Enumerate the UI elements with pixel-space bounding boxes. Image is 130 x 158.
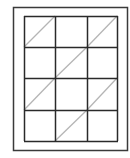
cell-diagonal [24, 78, 55, 110]
cell-diagonal [55, 110, 87, 141]
cell-diagonal [87, 16, 117, 47]
cell-diagonal [87, 78, 117, 110]
window-grid-diagram [0, 0, 130, 158]
cell-diagonal [24, 16, 55, 47]
cell-diagonal [55, 47, 87, 78]
grid-lines [24, 16, 118, 142]
